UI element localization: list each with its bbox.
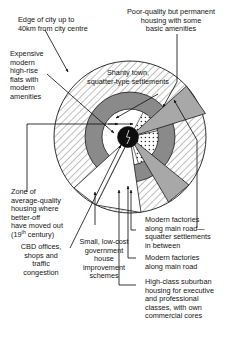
label-high-class-suburban-housing: High-class suburban housing for executiv… bbox=[145, 278, 231, 321]
label-shanty-town: Shanty town, squatter-type settlements bbox=[72, 69, 184, 86]
label-modern-factories-squatter-between: Modern factories along main road— squatt… bbox=[145, 216, 229, 250]
label-zone-average-quality-housing: Zone of average-quality housing where be… bbox=[11, 188, 87, 240]
label-poor-quality-permanent-housing: Poor-quality but permanent housing with … bbox=[117, 8, 225, 34]
label-expensive-high-rise-flats: Expensive modern high-rise flats with mo… bbox=[10, 50, 60, 102]
label-cbd-offices-shops-traffic: CBD offices, shops and traffic congestio… bbox=[8, 243, 74, 277]
diagram-canvas: Edge of city up to 40km from city centre… bbox=[0, 0, 231, 348]
label-edge-of-city: Edge of city up to 40km from city centre bbox=[18, 16, 124, 33]
label-modern-factories-along-main-road: Modern factories along main road bbox=[145, 254, 229, 271]
label-low-cost-government-schemes: Small, low-cost government house improve… bbox=[71, 238, 137, 281]
